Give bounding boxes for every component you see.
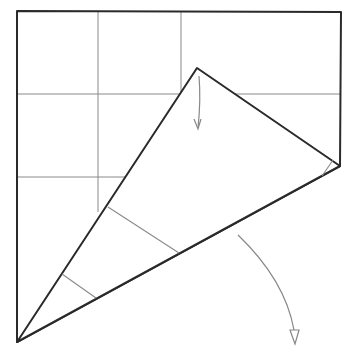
hollow-arrowhead-icon — [290, 330, 299, 344]
turn-over-arrow — [238, 235, 294, 330]
origami-diagram — [0, 0, 354, 361]
folded-flap — [17, 68, 340, 342]
